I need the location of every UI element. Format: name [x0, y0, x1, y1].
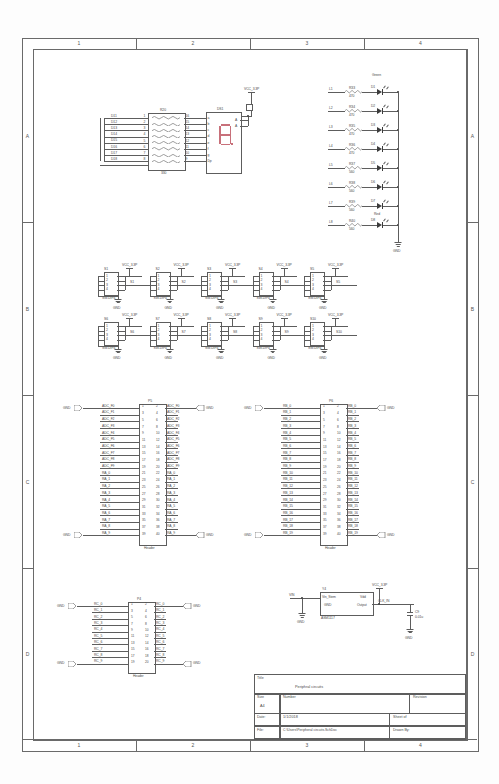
header-gnd-wire-right — [166, 606, 183, 607]
seven-seg-disp-wire — [184, 118, 206, 119]
zone-row-right-d: D — [466, 568, 478, 739]
seven-segment-seg-3 — [221, 144, 230, 146]
header-net-wire-right — [165, 442, 178, 443]
switch-right-bus — [177, 326, 178, 340]
header-net-wire-right — [346, 455, 359, 456]
switch-pin-wire-left — [150, 331, 156, 332]
switch-pin-wire-right — [169, 281, 177, 282]
seven-segment-pin-label: a — [208, 116, 210, 120]
header-net-wire-right — [165, 522, 178, 523]
switch-pin-wire-right — [117, 281, 125, 282]
led-net-label: L7 — [329, 201, 333, 205]
header-net-wire-left — [281, 509, 320, 510]
header-pin-number-even: 12 — [337, 439, 341, 443]
seven-seg-disp-wire — [184, 149, 206, 150]
switch-pin-number: 2 — [261, 278, 263, 282]
header-gnd-wire-left — [83, 535, 100, 536]
switch-pin-wire-left — [253, 285, 259, 286]
header-net-label-right: RC_3 — [156, 621, 164, 625]
header-net-wire-right — [154, 606, 166, 607]
header-net-label-left: RA_2 — [102, 484, 110, 488]
header-pin-number-even: 4 — [337, 412, 339, 416]
header-gnd-flag-left — [255, 405, 264, 411]
seven-seg-left-bus-bottom — [100, 165, 148, 166]
switch-pin-wire-left — [304, 290, 310, 291]
header-net-wire-right — [165, 435, 178, 436]
header-pin-number-odd: 21 — [142, 472, 146, 476]
header-pin-number-even: 12 — [156, 439, 160, 443]
led-ref: D3 — [371, 123, 375, 127]
zone-col-bottom-3: 3 — [250, 739, 365, 751]
led-cathode-wire — [383, 168, 399, 169]
led-gnd-label: GND — [393, 249, 400, 253]
header-net-wire-left — [100, 529, 139, 530]
led-net-wire — [328, 130, 345, 131]
header-net-wire-right — [154, 638, 166, 639]
header-pin-number-even: 20 — [337, 466, 341, 470]
size-value: A4 — [260, 704, 265, 708]
led-resistor-value: 560 — [349, 227, 354, 231]
switch-pin-wire-left — [304, 331, 310, 332]
gnd-bars — [166, 299, 174, 305]
resistor-network-pin-right: 15 — [186, 120, 190, 124]
led-resistor-value: 470 — [349, 94, 354, 98]
switch-pin-wire-left — [201, 276, 207, 277]
header-pin-number-odd: 1 — [323, 405, 325, 409]
header-net-label-right: RB_15 — [348, 504, 358, 508]
header-net-label-right: RA_6 — [167, 511, 175, 515]
led-common-bus — [398, 92, 399, 225]
header-pin-number-even: 28 — [156, 493, 160, 497]
header-pin-number-even: 14 — [145, 642, 149, 646]
header-net-label-right: RB_18 — [348, 524, 358, 528]
switch-pin-wire-right — [323, 340, 331, 341]
header-pin-number-odd: 1 — [131, 603, 133, 607]
vcc-label: VCC_3.3P — [225, 263, 240, 267]
switch-vcc-wire-h — [331, 326, 348, 327]
header-gnd-flag-right — [377, 405, 386, 411]
header-gnd-wire-left — [83, 408, 100, 409]
resistor-network-pin-right: 10 — [186, 151, 190, 155]
header-ref: P6 — [329, 399, 333, 403]
header-net-label-left: ADC_F5 — [102, 437, 114, 441]
seven-segment-seg-6 — [221, 134, 230, 136]
header-pin-number-even: 40 — [337, 533, 341, 537]
header-net-wire-right — [346, 408, 359, 409]
switch-pin-number: 3 — [261, 283, 263, 287]
header-pin-number-odd: 15 — [131, 648, 135, 652]
vcc-label: VCC_3.3P — [122, 313, 137, 317]
header-pin-number-even: 18 — [156, 459, 160, 463]
switch-pin-wire-left — [201, 285, 207, 286]
switch-vcc-wire-h — [177, 326, 194, 327]
switch-pin-number: 4 — [312, 337, 314, 341]
header-gnd-wire-right — [359, 535, 377, 536]
seven-segment-digit — [219, 124, 232, 146]
switch-pin-wire-right — [117, 276, 125, 277]
header-net-label-left: RA_3 — [102, 491, 110, 495]
header-net-wire-right — [154, 625, 166, 626]
switch-pin-wire-right — [272, 290, 280, 291]
header-net-label-right: RB_12 — [348, 484, 358, 488]
switch-pin-number: 4 — [106, 337, 108, 341]
switch-vcc-wire — [129, 268, 130, 276]
header-pin-number-odd: 37 — [323, 526, 327, 530]
header-net-wire-left — [92, 638, 128, 639]
regulator-in-pin-label: Vin_Stem — [322, 595, 336, 599]
header-net-wire-left — [100, 468, 139, 469]
seven-seg-left-bus-2 — [100, 118, 101, 161]
header-net-wire-right — [346, 495, 359, 496]
seven-seg-anode-bus — [248, 120, 249, 126]
regulator-gnd-stem — [302, 598, 303, 610]
seven-seg-disp-wire — [184, 130, 206, 131]
resistor-network-pin-left: 1 — [144, 114, 146, 118]
header-pin-number-odd: 11 — [323, 439, 326, 443]
vcc-label: VCC_3.3P — [174, 313, 189, 317]
switch-net-label: S8 — [233, 330, 237, 334]
switch-vcc-wire-h — [280, 276, 297, 277]
switch-pin-number: 1 — [312, 274, 314, 278]
switch-ref: S3 — [207, 267, 211, 271]
header-pin-number-odd: 13 — [131, 642, 135, 646]
switch-gnd-label: GND — [319, 306, 326, 310]
switch-left-bus — [304, 276, 305, 290]
seven-seg-left-bus — [104, 118, 105, 161]
header-pin-number-even: 30 — [337, 499, 341, 503]
